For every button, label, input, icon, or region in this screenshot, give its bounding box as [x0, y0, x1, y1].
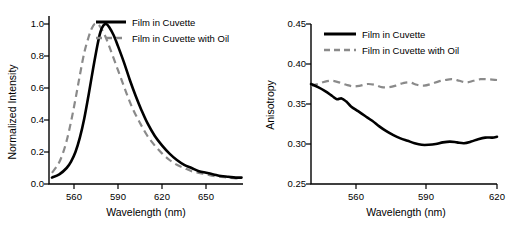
left-legend-label-1: Film in Cuvette with Oil [132, 33, 229, 44]
figure-root: Normalized Intensity 0.0 0.2 0.4 0.6 0.8… [0, 0, 512, 231]
left-x-ticks [74, 184, 206, 189]
right-series-dashed [311, 79, 497, 87]
left-x-tick-0: 560 [66, 191, 82, 202]
left-y-tick-3: 0.6 [31, 82, 44, 93]
right-x-tick-1: 590 [418, 191, 434, 202]
left-x-axis-title: Wavelength (nm) [106, 206, 186, 218]
right-y-tick-2: 0.35 [288, 98, 307, 109]
right-y-axis-title: Anisotropy [264, 79, 276, 129]
chart-panel-right: Anisotropy 0.25 0.30 0.35 0.40 0.45 560 … [256, 0, 512, 231]
left-y-axis-title: Normalized Intensity [6, 64, 18, 160]
left-x-tick-2: 620 [154, 191, 170, 202]
right-legend-label-0: Film in Cuvette [362, 29, 425, 40]
right-x-ticks [356, 184, 497, 189]
right-y-ticks [306, 24, 311, 184]
right-legend: Film in Cuvette Film in Cuvette with Oil [324, 29, 459, 56]
left-x-tick-3: 650 [198, 191, 214, 202]
left-y-tick-1: 0.2 [31, 146, 44, 157]
right-y-tick-0: 0.25 [288, 178, 307, 189]
anisotropy-chart: Anisotropy 0.25 0.30 0.35 0.40 0.45 560 … [256, 0, 512, 231]
right-x-tick-2: 620 [489, 191, 505, 202]
left-series-solid [52, 24, 242, 178]
chart-panel-left: Normalized Intensity 0.0 0.2 0.4 0.6 0.8… [0, 0, 256, 231]
left-y-tick-5: 1.0 [31, 18, 44, 29]
right-legend-label-1: Film in Cuvette with Oil [362, 45, 459, 56]
right-y-tick-3: 0.40 [288, 58, 307, 69]
left-y-tick-2: 0.4 [31, 114, 44, 125]
left-y-tick-4: 0.8 [31, 50, 44, 61]
right-y-tick-1: 0.30 [288, 138, 307, 149]
left-series-dashed [52, 23, 242, 178]
left-x-tick-1: 590 [110, 191, 126, 202]
emission-spectrum-chart: Normalized Intensity 0.0 0.2 0.4 0.6 0.8… [0, 0, 256, 231]
right-y-tick-4: 0.45 [288, 18, 307, 29]
left-legend-label-0: Film in Cuvette [132, 17, 195, 28]
left-y-tick-0: 0.0 [31, 178, 44, 189]
right-x-axis-title: Wavelength (nm) [366, 206, 446, 218]
right-series-solid [311, 84, 497, 145]
right-x-tick-0: 560 [348, 191, 364, 202]
left-y-ticks [44, 24, 49, 184]
